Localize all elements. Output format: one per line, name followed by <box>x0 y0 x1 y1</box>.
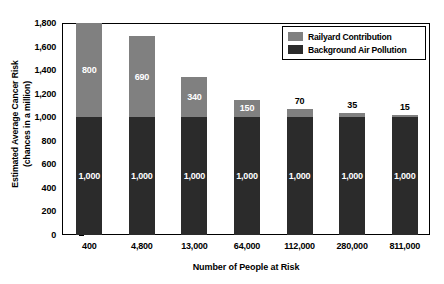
legend-label-background: Background Air Pollution <box>308 45 406 55</box>
y-axis-tick-label: 800 <box>22 136 56 146</box>
y-axis-tick-label: 400 <box>22 183 56 193</box>
y-axis-tick-label: 600 <box>22 159 56 169</box>
x-axis-tick-label: 811,000 <box>376 241 434 251</box>
x-axis-tick-label: 112,000 <box>271 241 329 251</box>
x-axis-tick-label: 400 <box>60 241 118 251</box>
y-axis-tick-label: 200 <box>22 206 56 216</box>
legend-swatch-icon-railyard <box>288 32 303 41</box>
stacked-bar-chart: Estimated Average Cancer Risk (chances i… <box>0 0 444 284</box>
bar-group: 151,000 <box>392 115 418 235</box>
bar-value-label-background: 1,000 <box>129 171 155 181</box>
bar-group: 701,000 <box>287 109 313 235</box>
bar-segment-railyard-contribution: 150 <box>234 100 260 118</box>
bar-segment-railyard-contribution: 340 <box>181 77 207 117</box>
legend-item-railyard-contribution: Railyard Contribution <box>288 30 420 43</box>
bar-segment-background-air-pollution: 1,000 <box>129 117 155 235</box>
y-axis-tick-label: 1,400 <box>22 65 56 75</box>
bar-segment-background-air-pollution: 1,000 <box>181 117 207 235</box>
bar-value-label-railyard: 35 <box>331 100 373 110</box>
bar-group: 3401,000 <box>181 77 207 235</box>
bar-group: 6901,000 <box>129 36 155 235</box>
bar-group: 1501,000 <box>234 100 260 235</box>
bar-segment-background-air-pollution: 1,000 <box>339 117 365 235</box>
y-axis-title-line-1: Estimated Average Cancer Risk <box>10 9 22 239</box>
bar-value-label-background: 1,000 <box>76 171 102 181</box>
legend-swatch-icon-background <box>288 45 303 54</box>
chart-legend: Railyard Contribution Background Air Pol… <box>282 26 426 60</box>
legend-item-background-air-pollution: Background Air Pollution <box>288 43 420 56</box>
bar-value-label-background: 1,000 <box>339 171 365 181</box>
bar-value-label-background: 1,000 <box>287 171 313 181</box>
bar-segment-railyard-contribution: 690 <box>129 36 155 117</box>
y-axis-tick-label: 1,600 <box>22 42 56 52</box>
bar-segment-background-air-pollution: 1,000 <box>76 117 102 235</box>
bar-group: 351,000 <box>339 113 365 235</box>
bar-value-label-railyard: 800 <box>76 65 102 75</box>
x-axis-tick-label: 280,000 <box>323 241 381 251</box>
y-axis-tick-mark <box>79 235 84 236</box>
bar-value-label-background: 1,000 <box>234 171 260 181</box>
x-axis-tick-label: 64,000 <box>218 241 276 251</box>
bar-value-label-background: 1,000 <box>181 171 207 181</box>
y-axis-tick-label: 1,200 <box>22 89 56 99</box>
x-axis-tick-labels: 4004,80013,00064,000112,000280,000811,00… <box>62 241 430 255</box>
bar-value-label-railyard: 15 <box>384 102 426 112</box>
bar-segment-railyard-contribution: 70 <box>287 109 313 117</box>
bar-value-label-background: 1,000 <box>392 171 418 181</box>
bar-value-label-railyard: 70 <box>279 96 321 106</box>
bar-segment-background-air-pollution: 1,000 <box>392 117 418 235</box>
bar-value-label-railyard: 340 <box>181 92 207 102</box>
y-axis-tick-labels: 02004006008001,0001,2001,4001,6001,800 <box>22 23 56 235</box>
bar-value-label-railyard: 690 <box>129 72 155 82</box>
bar-segment-background-air-pollution: 1,000 <box>287 117 313 235</box>
y-axis-tick-label: 1,000 <box>22 112 56 122</box>
x-axis-tick-label: 4,800 <box>113 241 171 251</box>
x-axis-tick-label: 13,000 <box>165 241 223 251</box>
bar-segment-railyard-contribution: 800 <box>76 23 102 117</box>
bar-value-label-railyard: 150 <box>234 103 260 113</box>
bar-segment-background-air-pollution: 1,000 <box>234 117 260 235</box>
x-axis-title: Number of People at Risk <box>62 262 430 272</box>
legend-label-railyard: Railyard Contribution <box>308 32 392 42</box>
y-axis-tick-label: 0 <box>22 230 56 240</box>
bar-group: 8001,000 <box>76 23 102 235</box>
y-axis-tick-label: 1,800 <box>22 18 56 28</box>
